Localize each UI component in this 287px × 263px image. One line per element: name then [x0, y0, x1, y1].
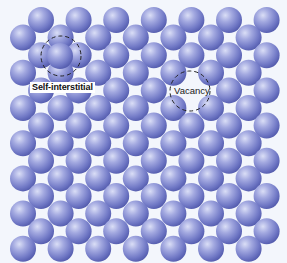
lattice-atom: [236, 236, 262, 262]
interstitial-atom: [47, 43, 73, 69]
lattice-atom: [198, 236, 224, 262]
lattice-atom: [123, 236, 149, 262]
lattice-atom: [10, 236, 36, 262]
lattice-atom: [48, 236, 74, 262]
crystal-defect-diagram: Self-interstitial Vacancy: [0, 0, 287, 263]
atom-lattice: [0, 0, 287, 263]
lattice-atom: [160, 236, 186, 262]
self-interstitial-atom: [47, 43, 73, 69]
vacancy-label: Vacancy: [174, 85, 210, 96]
lattice-atom: [85, 236, 111, 262]
lattice-atoms: [10, 7, 280, 262]
self-interstitial-label: Self-interstitial: [30, 82, 95, 93]
